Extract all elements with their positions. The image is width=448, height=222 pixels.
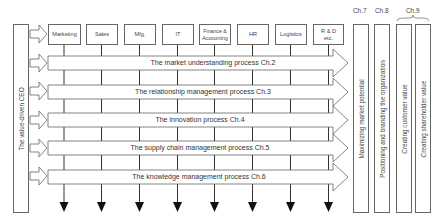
function-label: IT xyxy=(176,31,181,38)
outcome-label: Creating customer value xyxy=(401,84,408,153)
function-label: Logistics xyxy=(280,31,302,38)
function-box-logistics: Logistics xyxy=(275,24,307,45)
function-box-sales: Sales xyxy=(86,24,118,45)
function-label: R & D etc. xyxy=(320,28,337,42)
chapter-label-ch8: Ch.8 xyxy=(375,7,389,14)
chapter-label-ch9: Ch.9 xyxy=(406,7,420,14)
ceo-label: The value-driven CEO xyxy=(18,87,25,150)
function-label: HR xyxy=(249,31,257,38)
function-box-it: IT xyxy=(162,24,194,45)
process-label-innovation: The innovation process Ch.4 xyxy=(155,116,244,123)
function-label: Marketing xyxy=(52,31,77,38)
outcome-creating-shareholder-value: Creating shareholder value xyxy=(415,24,431,213)
function-box-hr: HR xyxy=(237,24,269,45)
function-box-rnd: R & D etc. xyxy=(313,24,344,45)
function-label: Mfg. xyxy=(135,31,146,38)
ceo-arrows xyxy=(30,25,47,185)
process-label-knowledge-management: The knowledge management process Ch.6 xyxy=(132,173,265,180)
ceo-box: The value-driven CEO xyxy=(13,24,29,213)
process-label-relationship-management: The relationship management process Ch.3 xyxy=(135,88,271,95)
outcome-creating-customer-value: Creating customer value xyxy=(396,24,412,213)
ch9-brace xyxy=(397,15,429,21)
outcome-label: Maximizing market potential xyxy=(358,79,365,158)
function-box-finance: Finance & Accounting xyxy=(199,24,231,45)
chapter-label-ch7: Ch.7 xyxy=(353,7,367,14)
process-label-supply-chain: The supply chain management process Ch.5 xyxy=(131,144,270,151)
outcome-label: Positioning and branding the organizatio… xyxy=(379,60,386,178)
outcome-positioning-branding: Positioning and branding the organizatio… xyxy=(374,24,390,213)
function-label: Sales xyxy=(95,31,109,38)
function-label: Finance & Accounting xyxy=(200,28,230,42)
process-label-market-understanding: The market understanding process Ch.2 xyxy=(151,59,276,66)
outcome-label: Creating shareholder value xyxy=(420,80,427,157)
function-box-mfg: Mfg. xyxy=(124,24,156,45)
function-box-marketing: Marketing xyxy=(48,24,81,45)
outcome-maximizing-market-potential: Maximizing market potential xyxy=(353,24,369,213)
